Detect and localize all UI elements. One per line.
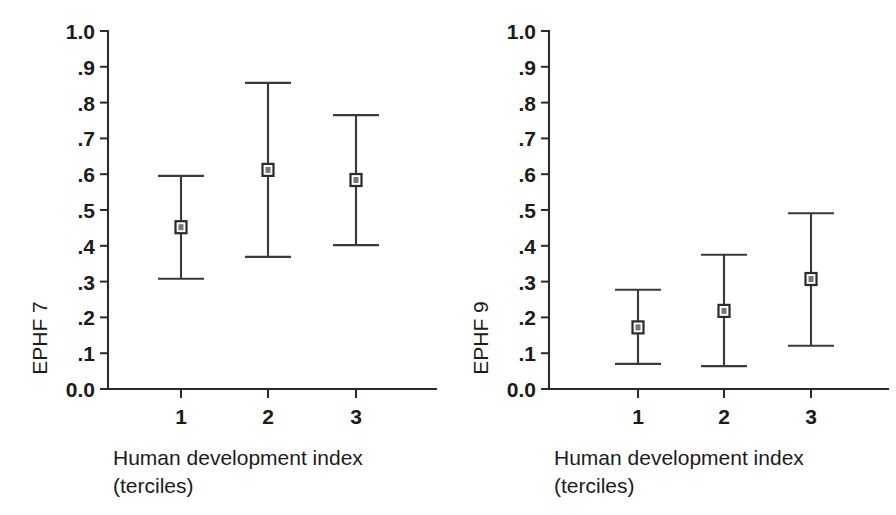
errorbar-tercile-1 bbox=[158, 176, 204, 279]
y-tick-marks bbox=[100, 31, 108, 389]
x-tick-label-2: 2 bbox=[718, 405, 730, 428]
y-tick-label-0.8: .8 bbox=[77, 92, 95, 115]
y-tick-label-0.9: .9 bbox=[518, 56, 536, 79]
y-tick-label-0.5: .5 bbox=[77, 199, 95, 222]
y-tick-label-0.7: .7 bbox=[518, 127, 536, 150]
y-tick-marks bbox=[541, 31, 549, 389]
y-tick-label-0.1: .1 bbox=[518, 342, 536, 365]
y-tick-label-0.8: .8 bbox=[518, 92, 536, 115]
y-tick-label-1.0: 1.0 bbox=[66, 20, 95, 43]
x-tick-label-3: 3 bbox=[805, 405, 817, 428]
x-tick-marks bbox=[638, 389, 811, 398]
panel-ephf7: 1.0 .9 .8 .7 .6 .5 .4 .3 .2 .1 0.0 1 2 3 bbox=[0, 0, 448, 515]
y-tick-label-0.2: .2 bbox=[77, 306, 95, 329]
y-tick-label-0.3: .3 bbox=[77, 271, 95, 294]
panel-ephf9-canvas: 1.0 .9 .8 .7 .6 .5 .4 .3 .2 .1 0.0 1 2 3 bbox=[448, 0, 896, 515]
y-tick-label-0.6: .6 bbox=[518, 163, 536, 186]
y-tick-label-1.0: 1.0 bbox=[507, 20, 536, 43]
y-tick-label-0.6: .6 bbox=[77, 163, 95, 186]
y-tick-label-0.2: .2 bbox=[518, 306, 536, 329]
x-tick-marks bbox=[181, 389, 356, 398]
errorbar-tercile-1 bbox=[615, 290, 661, 364]
errorbar-tercile-3 bbox=[788, 213, 834, 346]
panel-ephf9: 1.0 .9 .8 .7 .6 .5 .4 .3 .2 .1 0.0 1 2 3 bbox=[448, 0, 896, 515]
y-tick-label-0.4: .4 bbox=[77, 235, 95, 258]
y-tick-label-0.1: .1 bbox=[77, 342, 95, 365]
x-axis-title-line1: Human development index bbox=[554, 446, 804, 469]
x-axis-title-line1: Human development index bbox=[113, 446, 363, 469]
y-tick-label-0.3: .3 bbox=[518, 271, 536, 294]
panel-ephf7-canvas: 1.0 .9 .8 .7 .6 .5 .4 .3 .2 .1 0.0 1 2 3 bbox=[0, 0, 448, 515]
x-tick-label-3: 3 bbox=[350, 405, 362, 428]
figure-two-panel-errorbar-plot: 1.0 .9 .8 .7 .6 .5 .4 .3 .2 .1 0.0 1 2 3 bbox=[0, 0, 896, 515]
errorbar-tercile-2 bbox=[245, 83, 291, 257]
y-tick-label-0.7: .7 bbox=[77, 127, 95, 150]
y-tick-label-0.9: .9 bbox=[77, 56, 95, 79]
x-axis-title-line2: (terciles) bbox=[554, 474, 635, 497]
y-tick-label-0.0: 0.0 bbox=[66, 378, 95, 401]
y-axis-title: EPHF 9 bbox=[469, 301, 492, 375]
y-tick-label-0.4: .4 bbox=[518, 235, 536, 258]
y-axis-title: EPHF 7 bbox=[28, 301, 51, 375]
y-tick-label-0.5: .5 bbox=[518, 199, 536, 222]
y-tick-label-0.0: 0.0 bbox=[507, 378, 536, 401]
x-tick-label-1: 1 bbox=[632, 405, 644, 428]
errorbar-tercile-2 bbox=[701, 255, 747, 366]
x-tick-label-2: 2 bbox=[262, 405, 274, 428]
x-tick-label-1: 1 bbox=[175, 405, 187, 428]
x-axis-title-line2: (terciles) bbox=[113, 474, 194, 497]
errorbar-tercile-3 bbox=[333, 115, 379, 245]
